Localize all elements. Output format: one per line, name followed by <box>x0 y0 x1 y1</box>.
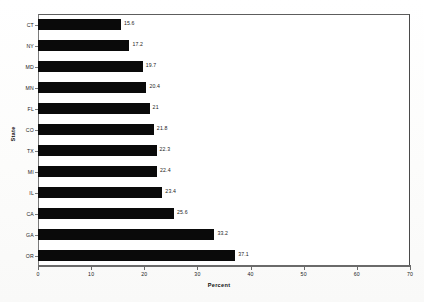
bar-ny <box>38 40 129 51</box>
x-axis-tick <box>197 267 198 270</box>
bar-value-label: 25.6 <box>177 207 188 218</box>
bar-tx <box>38 145 157 156</box>
x-axis-tick <box>304 267 305 270</box>
bar-chart-figure: 15.617.219.720.42121.822.322.423.425.633… <box>0 0 424 302</box>
x-axis-tick-label: 0 <box>36 271 39 277</box>
y-axis-tick <box>35 193 38 194</box>
bar-value-label: 23.4 <box>165 186 176 197</box>
y-axis-tick <box>35 130 38 131</box>
x-axis-tick-label: 30 <box>194 271 200 277</box>
x-axis-tick-label: 40 <box>247 271 253 277</box>
bar-row: 20.4 <box>38 77 410 98</box>
bar-row: 33.2 <box>38 224 410 245</box>
y-axis-tick <box>35 67 38 68</box>
bar-row: 15.6 <box>38 14 410 35</box>
x-axis-tick-label: 50 <box>301 271 307 277</box>
bar-value-label: 37.1 <box>238 249 249 260</box>
bar-row: 21 <box>38 98 410 119</box>
bar-value-label: 17.2 <box>132 39 143 50</box>
category-label-ny: NY <box>4 42 34 50</box>
y-axis-tick <box>35 88 38 89</box>
category-label-il: IL <box>4 189 34 197</box>
bar-ca <box>38 208 174 219</box>
category-label-md: MD <box>4 63 34 71</box>
bar-value-label: 22.3 <box>160 144 171 155</box>
bar-mn <box>38 82 146 93</box>
bar-mi <box>38 166 157 177</box>
category-label-ca: CA <box>4 210 34 218</box>
bar-row: 37.1 <box>38 245 410 266</box>
bar-value-label: 33.2 <box>217 228 228 239</box>
category-label-or: OR <box>4 252 34 260</box>
bar-or <box>38 250 235 261</box>
bar-row: 22.3 <box>38 140 410 161</box>
category-label-mn: MN <box>4 84 34 92</box>
category-label-ga: GA <box>4 231 34 239</box>
bar-il <box>38 187 162 198</box>
bar-md <box>38 61 143 72</box>
bar-value-label: 22.4 <box>160 165 171 176</box>
bar-value-label: 15.6 <box>124 18 135 29</box>
category-label-mi: MI <box>4 168 34 176</box>
y-axis-tick <box>35 256 38 257</box>
bar-row: 17.2 <box>38 35 410 56</box>
bar-ga <box>38 229 214 240</box>
x-axis-title: Percent <box>0 282 424 288</box>
y-axis-tick <box>35 46 38 47</box>
category-label-tx: TX <box>4 147 34 155</box>
bar-value-label: 21 <box>153 102 159 113</box>
x-axis-tick <box>251 267 252 270</box>
y-axis-tick <box>35 25 38 26</box>
bar-value-label: 21.8 <box>157 123 168 134</box>
bar-row: 25.6 <box>38 203 410 224</box>
x-axis-tick <box>38 267 39 270</box>
bar-row: 22.4 <box>38 161 410 182</box>
x-axis-tick <box>357 267 358 270</box>
y-axis-tick <box>35 235 38 236</box>
x-axis-tick <box>91 267 92 270</box>
y-axis-tick <box>35 109 38 110</box>
x-axis-tick-label: 70 <box>407 271 413 277</box>
y-axis-tick <box>35 214 38 215</box>
y-axis-tick <box>35 151 38 152</box>
y-axis-title: State <box>10 126 16 141</box>
bar-ct <box>38 19 121 30</box>
bar-fl <box>38 103 150 114</box>
bar-row: 21.8 <box>38 119 410 140</box>
x-axis-tick <box>144 267 145 270</box>
bar-value-label: 19.7 <box>146 60 157 71</box>
bar-row: 23.4 <box>38 182 410 203</box>
bar-co <box>38 124 154 135</box>
x-axis-tick-label: 10 <box>88 271 94 277</box>
x-axis-tick-label: 60 <box>354 271 360 277</box>
x-axis-tick-label: 20 <box>141 271 147 277</box>
bar-row: 19.7 <box>38 56 410 77</box>
category-label-ct: CT <box>4 21 34 29</box>
category-label-co: CO <box>4 126 34 134</box>
y-axis-tick <box>35 172 38 173</box>
x-axis-tick <box>410 267 411 270</box>
category-label-fl: FL <box>4 105 34 113</box>
bar-value-label: 20.4 <box>149 81 160 92</box>
